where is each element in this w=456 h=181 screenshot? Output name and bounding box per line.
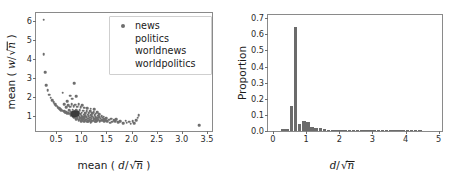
histogram-bar bbox=[310, 127, 314, 131]
y-tick-mark bbox=[33, 21, 36, 22]
scatter-point bbox=[61, 91, 64, 94]
scatter-point bbox=[73, 82, 76, 85]
scatter-point bbox=[42, 53, 45, 56]
x-title-prefix: mean ( bbox=[78, 159, 115, 171]
y-tick-label: 0.6 bbox=[251, 30, 264, 38]
legend-dot-icon bbox=[121, 49, 125, 53]
y-tick-label: 0.7 bbox=[251, 14, 264, 22]
y-tick-label: 1 bbox=[27, 112, 32, 120]
scatter-point bbox=[115, 118, 118, 121]
histogram-bar bbox=[418, 130, 422, 131]
legend-marker-icon bbox=[115, 37, 131, 41]
histogram-axes: 0.00.10.20.30.40.50.60.7 012345 bbox=[267, 14, 443, 132]
histogram-bar bbox=[414, 130, 418, 131]
histogram-bar bbox=[368, 130, 372, 131]
scatter-point bbox=[46, 89, 49, 92]
x-tick-label: 5 bbox=[436, 135, 441, 143]
scatter-point bbox=[90, 121, 93, 124]
x-tick-label: 1.5 bbox=[100, 135, 113, 143]
histogram-bar bbox=[410, 130, 414, 131]
y-tick-label: 0.1 bbox=[251, 111, 264, 119]
y-title-prefix: mean ( bbox=[5, 72, 17, 109]
histogram-bar bbox=[298, 124, 302, 131]
y-tick-label: 4 bbox=[27, 55, 32, 63]
y-tick-label: 0.5 bbox=[251, 46, 264, 54]
radical-bar bbox=[346, 161, 354, 162]
histogram-bar bbox=[323, 129, 327, 131]
legend-dot-icon bbox=[121, 24, 125, 28]
y-tick-mark bbox=[33, 40, 36, 41]
x-tick-label: 0 bbox=[270, 135, 275, 143]
histogram-bar bbox=[327, 130, 331, 131]
histogram-bar bbox=[285, 129, 289, 131]
scatter-point bbox=[133, 122, 136, 125]
y-tick-label: 0.0 bbox=[251, 127, 264, 135]
scatter-point bbox=[137, 114, 140, 117]
scatter-point bbox=[135, 119, 138, 122]
x-tick-label: 2 bbox=[337, 135, 342, 143]
y-tick-mark bbox=[265, 115, 268, 116]
histogram-bars-layer bbox=[268, 15, 442, 131]
histogram-bar bbox=[331, 130, 335, 131]
scatter-axes: 123456 0.51.01.52.02.53.03.5 news politi… bbox=[35, 12, 213, 132]
scatter-point bbox=[65, 106, 68, 109]
x-tick-label: 1.0 bbox=[75, 135, 88, 143]
y-tick-mark bbox=[265, 131, 268, 132]
y-tick-mark bbox=[265, 50, 268, 51]
scatter-point bbox=[75, 95, 78, 98]
y-tick-label: 6 bbox=[27, 17, 32, 25]
scatter-point bbox=[136, 116, 139, 119]
x-tick-label: 3.0 bbox=[175, 135, 188, 143]
histogram-bar bbox=[314, 128, 318, 131]
histogram-bar bbox=[352, 130, 356, 131]
scatter-point bbox=[86, 121, 89, 124]
y-tick-mark bbox=[265, 83, 268, 84]
x-tick-label: 3.5 bbox=[200, 135, 213, 143]
y-tick-mark bbox=[265, 34, 268, 35]
scatter-legend: news politics worldnews worldpolitics bbox=[109, 16, 212, 75]
histogram-bar bbox=[360, 130, 364, 131]
legend-item: politics bbox=[115, 33, 206, 46]
x-title-radical-group: √n bbox=[340, 160, 354, 171]
x-tick-label: 0.5 bbox=[50, 135, 63, 143]
histogram-bar bbox=[397, 130, 401, 131]
y-tick-mark bbox=[265, 99, 268, 100]
legend-item: worldpolitics bbox=[115, 58, 206, 71]
y-tick-label: 0.2 bbox=[251, 95, 264, 103]
scatter-point bbox=[198, 124, 201, 127]
scatter-panel: 123456 0.51.01.52.02.53.03.5 news politi… bbox=[0, 0, 228, 181]
y-title-radical-group: √n bbox=[6, 42, 17, 56]
y-tick-mark bbox=[33, 97, 36, 98]
scatter-point bbox=[105, 117, 108, 120]
histogram-bar bbox=[377, 130, 381, 131]
scatter-point-dense bbox=[71, 111, 76, 116]
scatter-point bbox=[66, 100, 69, 103]
histogram-bar bbox=[306, 122, 310, 131]
scatter-point bbox=[63, 103, 66, 106]
scatter-point bbox=[122, 122, 125, 125]
legend-item-label: politics bbox=[131, 34, 169, 44]
x-tick-label: 2.0 bbox=[125, 135, 138, 143]
scatter-point bbox=[76, 106, 79, 109]
legend-marker-icon bbox=[115, 62, 131, 66]
x-tick-label: 4 bbox=[403, 135, 408, 143]
y-tick-mark bbox=[265, 18, 268, 19]
histogram-panel: 0.00.10.20.30.40.50.60.7 012345 d/√n Pro… bbox=[228, 0, 456, 181]
legend-dot-icon bbox=[121, 37, 125, 41]
histogram-bar bbox=[401, 130, 405, 131]
scatter-point bbox=[82, 120, 85, 123]
y-tick-label: 5 bbox=[27, 36, 32, 44]
histogram-bar bbox=[348, 130, 352, 131]
scatter-point bbox=[44, 71, 47, 74]
histogram-bar bbox=[319, 128, 323, 131]
histogram-bar bbox=[356, 130, 360, 131]
y-tick-mark bbox=[33, 116, 36, 117]
histogram-bar bbox=[389, 130, 393, 131]
x-title-numerator: d bbox=[330, 159, 337, 171]
histogram-bar bbox=[294, 27, 298, 131]
scatter-point bbox=[45, 84, 48, 87]
scatter-x-axis-title: mean ( d/√n ) bbox=[78, 160, 151, 171]
y-tick-label: 0.3 bbox=[251, 79, 264, 87]
legend-marker-icon bbox=[115, 24, 131, 28]
scatter-point bbox=[129, 122, 132, 125]
